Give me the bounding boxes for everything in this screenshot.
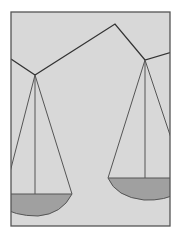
balance-scale-illustration [0, 0, 179, 239]
scale-drawing [0, 0, 179, 239]
